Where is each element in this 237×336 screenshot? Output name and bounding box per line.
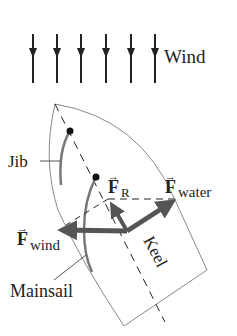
svg-text:wind: wind bbox=[30, 237, 61, 253]
mainsail-label: Mainsail bbox=[10, 281, 73, 301]
jib-sail bbox=[60, 131, 70, 185]
wind-force-arrow-icon bbox=[62, 230, 127, 231]
svg-text:F: F bbox=[17, 229, 28, 249]
wind-force-label: → F wind bbox=[17, 222, 61, 253]
resultant-force-arrow-icon bbox=[112, 205, 127, 231]
svg-text:water: water bbox=[178, 184, 211, 200]
main-mast-dot bbox=[93, 174, 100, 181]
jib-mast-dot bbox=[67, 128, 74, 135]
mainsail-leader-line bbox=[54, 255, 86, 280]
svg-text:R: R bbox=[121, 185, 130, 200]
force-arrows bbox=[62, 202, 172, 231]
svg-text:F: F bbox=[108, 177, 119, 197]
jib-label: Jib bbox=[8, 152, 28, 171]
water-force-arrow-icon bbox=[127, 202, 172, 231]
mainsail bbox=[84, 177, 96, 272]
wind-arrows bbox=[29, 34, 159, 83]
resultant-force-label: → F R bbox=[108, 170, 130, 200]
sailboat-force-diagram: Wind Jib Mainsail → F R → F water → F wi… bbox=[0, 0, 237, 336]
water-force-label: → F water bbox=[165, 170, 211, 200]
wind-label: Wind bbox=[164, 46, 206, 67]
keel-label: Keel bbox=[139, 233, 171, 270]
svg-text:F: F bbox=[165, 177, 176, 197]
